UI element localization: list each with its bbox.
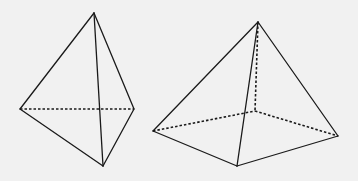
visible-edge-right-bottom	[103, 109, 134, 166]
tetrahedron	[20, 13, 134, 166]
hidden-edge-back-right	[255, 111, 338, 136]
hidden-edge-left-back	[153, 111, 255, 131]
visible-edge-apex-left	[20, 13, 94, 109]
visible-edge-apex-right	[94, 13, 134, 109]
visible-edge-apex-right	[258, 22, 338, 136]
square-pyramid	[153, 22, 338, 166]
visible-edge-front-right	[237, 136, 338, 166]
visible-edge-left-bottom	[20, 109, 103, 166]
visible-edge-apex-bottom	[94, 13, 103, 166]
geometry-diagram	[0, 0, 358, 181]
visible-edge-apex-left	[153, 22, 258, 131]
visible-edge-left-front	[153, 131, 237, 166]
